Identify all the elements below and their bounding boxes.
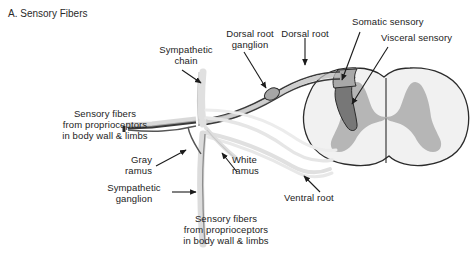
label-line: in body wall & limbs	[48, 130, 162, 141]
leader-ventral-root	[304, 176, 320, 192]
label-line: in body wall & limbs	[168, 235, 284, 246]
label-sympathetic-chain: Sympathetic chain	[148, 44, 224, 66]
label-dorsal-root: Dorsal root	[273, 28, 337, 39]
label-line: Sensory fibers	[48, 108, 162, 119]
label-white-ramus: White ramus	[232, 154, 259, 176]
leader-dorsal-root-ganglion	[244, 52, 266, 88]
sensory-fibers-diagram: A. Sensory Fibers	[0, 0, 473, 256]
label-line: Somatic sensory	[352, 16, 424, 27]
label-line: Sympathetic	[148, 44, 224, 55]
label-line: ramus	[232, 165, 259, 176]
label-line: Sensory fibers	[168, 213, 284, 224]
label-line: from proprioceptors	[168, 224, 284, 235]
label-sensory-fibers-left: Sensory fibers from proprioceptors in bo…	[48, 108, 162, 141]
label-line: Gray	[96, 154, 152, 165]
sympathetic-chain-trunk	[202, 72, 204, 124]
leader-gray-ramus	[156, 150, 186, 166]
label-sensory-fibers-bottom: Sensory fibers from proprioceptors in bo…	[168, 213, 284, 246]
label-visceral-sensory: Visceral sensory	[381, 32, 452, 43]
label-gray-ramus: Gray ramus	[96, 154, 152, 176]
label-line: Visceral sensory	[381, 32, 452, 43]
label-line: from proprioceptors	[48, 119, 162, 130]
label-somatic-sensory: Somatic sensory	[352, 16, 424, 27]
label-sympathetic-ganglion: Sympathetic ganglion	[98, 182, 170, 204]
label-line: chain	[148, 55, 224, 66]
label-line: ganglion	[216, 39, 284, 50]
label-line: White	[232, 154, 259, 165]
label-line: Ventral root	[284, 192, 334, 203]
label-line: ganglion	[98, 193, 170, 204]
label-line: ramus	[96, 165, 152, 176]
label-line: Dorsal root	[273, 28, 337, 39]
label-line: Sympathetic	[98, 182, 170, 193]
label-ventral-root: Ventral root	[284, 192, 334, 203]
